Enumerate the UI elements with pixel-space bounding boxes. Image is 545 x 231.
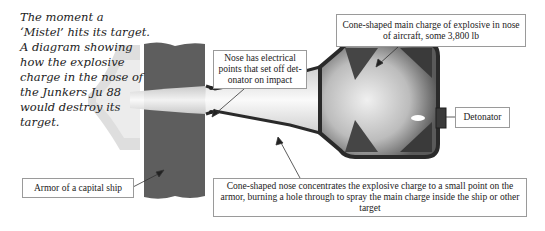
label-detonator-text: Detonator (464, 112, 502, 123)
label-armor: Armor of a capital ship (22, 178, 134, 198)
figure-caption: The moment a ‘Mistel’ hits its target. A… (20, 10, 150, 130)
label-detonator: Detonator (455, 107, 510, 128)
label-main-charge-text: Cone-shaped main charge of explosive in … (341, 20, 521, 42)
label-nose-text: Nose has electrical points that set off … (218, 53, 302, 86)
label-nose-electrical-points: Nose has electrical points that set off … (213, 50, 307, 89)
armor-plate (144, 42, 205, 198)
label-cone-shaped-nose: Cone-shaped nose concentrates the explos… (213, 178, 527, 217)
label-cone-nose-text: Cone-shaped nose concentrates the explos… (218, 181, 522, 214)
detonator (436, 108, 446, 128)
label-armor-text: Armor of a capital ship (34, 183, 122, 194)
label-main-charge: Cone-shaped main charge of explosive in … (336, 14, 526, 47)
